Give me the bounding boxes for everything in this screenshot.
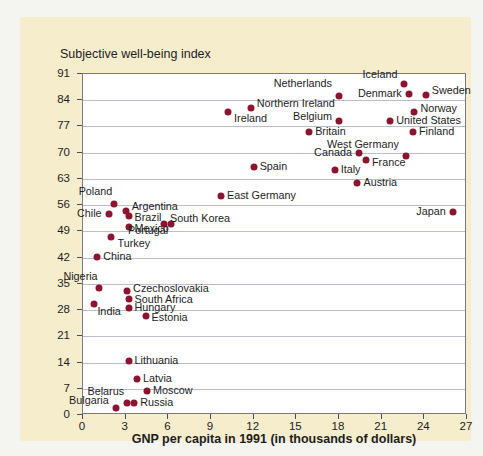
y-tick-mark bbox=[77, 152, 82, 153]
data-point[interactable] bbox=[401, 81, 408, 88]
y-tick-mark bbox=[77, 309, 82, 310]
x-tick-mark bbox=[210, 414, 211, 419]
data-point-label: South Korea bbox=[170, 212, 230, 224]
data-point-label: Estonia bbox=[152, 311, 188, 323]
x-tick-label: 12 bbox=[246, 420, 259, 432]
data-point[interactable] bbox=[131, 400, 138, 407]
x-tick-label: 3 bbox=[121, 420, 127, 432]
x-tick-label: 24 bbox=[417, 420, 430, 432]
y-tick-label: 42 bbox=[46, 251, 70, 263]
data-point[interactable] bbox=[125, 357, 132, 364]
gridline bbox=[83, 336, 465, 337]
data-point-label: Spain bbox=[260, 160, 288, 172]
data-point[interactable] bbox=[449, 208, 456, 215]
x-tick-label: 9 bbox=[207, 420, 213, 432]
y-tick-mark bbox=[77, 204, 82, 205]
data-point-label: Japan bbox=[416, 205, 445, 217]
data-point-label: Iceland bbox=[363, 68, 398, 80]
data-point[interactable] bbox=[225, 109, 232, 116]
y-tick-mark bbox=[77, 73, 82, 74]
data-point-label: Moscow bbox=[153, 384, 193, 396]
y-tick-label: 49 bbox=[46, 224, 70, 236]
data-point-label: Austria bbox=[363, 176, 397, 188]
y-axis-title: Subjective well-being index bbox=[60, 47, 211, 61]
x-tick-label: 27 bbox=[460, 420, 473, 432]
data-point[interactable] bbox=[125, 212, 132, 219]
data-point[interactable] bbox=[111, 200, 118, 207]
data-point[interactable] bbox=[134, 376, 141, 383]
data-point[interactable] bbox=[306, 129, 313, 136]
data-point[interactable] bbox=[95, 284, 102, 291]
x-tick-label: 21 bbox=[374, 420, 387, 432]
x-tick-label: 15 bbox=[289, 420, 302, 432]
data-point[interactable] bbox=[124, 287, 131, 294]
data-point-label: China bbox=[103, 250, 131, 262]
data-point-label: Italy bbox=[341, 163, 361, 175]
y-tick-mark bbox=[77, 283, 82, 284]
data-point[interactable] bbox=[124, 400, 131, 407]
data-point[interactable] bbox=[247, 105, 254, 112]
data-point-label: United States bbox=[396, 114, 461, 126]
data-point-label: Chile bbox=[77, 207, 102, 219]
data-point-label: Ireland bbox=[234, 112, 267, 124]
y-tick-mark bbox=[77, 125, 82, 126]
data-point[interactable] bbox=[112, 405, 119, 412]
y-tick-mark bbox=[77, 362, 82, 363]
data-point[interactable] bbox=[422, 91, 429, 98]
data-point[interactable] bbox=[250, 164, 257, 171]
x-tick-mark bbox=[423, 414, 424, 419]
x-tick-mark bbox=[167, 414, 168, 419]
data-point-label: Brazil bbox=[135, 211, 162, 223]
data-point[interactable] bbox=[217, 192, 224, 199]
data-point[interactable] bbox=[336, 93, 343, 100]
y-tick-label: 0 bbox=[46, 408, 70, 420]
x-axis-title: GNP per capita in 1991 (in thousands of … bbox=[82, 432, 466, 446]
data-point[interactable] bbox=[363, 157, 370, 164]
data-point-label: Bulgaria bbox=[69, 394, 109, 406]
data-point-label: Belgium bbox=[293, 110, 332, 122]
y-tick-label: 70 bbox=[46, 146, 70, 158]
data-point[interactable] bbox=[105, 210, 112, 217]
x-tick-mark bbox=[466, 414, 467, 419]
data-point-label: East Germany bbox=[227, 189, 296, 201]
y-tick-mark bbox=[77, 388, 82, 389]
data-point[interactable] bbox=[355, 150, 362, 157]
data-point[interactable] bbox=[331, 166, 338, 173]
data-point-label: India bbox=[97, 305, 120, 317]
y-tick-label: 14 bbox=[46, 356, 70, 368]
y-tick-mark bbox=[77, 257, 82, 258]
x-tick-label: 6 bbox=[164, 420, 170, 432]
data-point[interactable] bbox=[409, 129, 416, 136]
data-point-label: Turkey bbox=[117, 237, 150, 249]
data-point[interactable] bbox=[354, 180, 361, 187]
data-point-label: Lithuania bbox=[135, 354, 179, 366]
data-point[interactable] bbox=[387, 118, 394, 125]
gridline bbox=[83, 126, 465, 127]
y-tick-mark bbox=[77, 178, 82, 179]
data-point-label: Denmark bbox=[358, 87, 402, 99]
data-point[interactable] bbox=[144, 387, 151, 394]
data-point-label: Russia bbox=[140, 396, 173, 408]
y-tick-label: 63 bbox=[46, 172, 70, 184]
data-point[interactable] bbox=[336, 118, 343, 125]
data-point-label: Britain bbox=[315, 125, 346, 137]
x-tick-mark bbox=[338, 414, 339, 419]
data-point-label: Northern Ireland bbox=[257, 97, 335, 109]
y-tick-label: 7 bbox=[46, 382, 70, 394]
data-point[interactable] bbox=[94, 253, 101, 260]
data-point-label: Netherlands bbox=[274, 77, 332, 89]
chart-figure: Subjective well-being index GNP per capi… bbox=[0, 0, 483, 456]
data-point-label: Sweden bbox=[432, 84, 471, 96]
x-tick-mark bbox=[381, 414, 382, 419]
data-point[interactable] bbox=[125, 305, 132, 312]
data-point[interactable] bbox=[108, 234, 115, 241]
gridline bbox=[83, 258, 465, 259]
y-tick-label: 91 bbox=[46, 67, 70, 79]
y-tick-mark bbox=[77, 335, 82, 336]
data-point[interactable] bbox=[405, 90, 412, 97]
data-point[interactable] bbox=[125, 295, 132, 302]
data-point[interactable] bbox=[142, 312, 149, 319]
x-tick-mark bbox=[295, 414, 296, 419]
data-point-label: France bbox=[372, 156, 406, 168]
gridline bbox=[83, 179, 465, 180]
